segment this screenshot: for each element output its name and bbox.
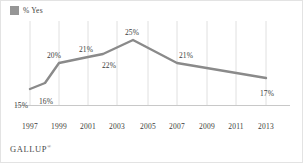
gallup-brand-footer: GALLUP®	[10, 144, 52, 153]
data-label-2002: 22%	[102, 62, 116, 70]
x-tick-1999: 1999	[51, 123, 67, 131]
data-label-2013: 17%	[260, 90, 274, 98]
x-tick-2003: 2003	[109, 123, 125, 131]
chart-legend: % Yes	[10, 6, 43, 15]
legend-label: % Yes	[23, 7, 43, 15]
x-tick-1997: 1997	[22, 123, 38, 131]
gallup-line-chart: % Yes 15% 16% 20% 21% 22% 25% 21% 17%	[0, 0, 303, 163]
x-tick-2013: 2013	[258, 123, 274, 131]
x-tick-2009: 2009	[199, 123, 215, 131]
data-label-2001: 21%	[79, 46, 93, 54]
data-label-2004: 25%	[125, 29, 139, 37]
gallup-wordmark: GALLUP	[10, 144, 47, 154]
x-tick-2007: 2007	[169, 123, 185, 131]
data-label-1999: 20%	[47, 52, 61, 60]
data-label-2007: 21%	[179, 52, 193, 60]
data-label-1997: 15%	[14, 102, 28, 110]
x-axis-labels: 1997 1999 2001 2003 2005 2007 2009 2011 …	[1, 123, 303, 137]
registered-trademark-icon: ®	[47, 144, 51, 149]
x-tick-2001: 2001	[80, 123, 96, 131]
x-tick-2005: 2005	[140, 123, 156, 131]
data-label-1998: 16%	[39, 98, 53, 106]
legend-swatch-icon	[10, 6, 19, 15]
x-tick-2011: 2011	[228, 123, 244, 131]
gridlines	[30, 21, 266, 105]
